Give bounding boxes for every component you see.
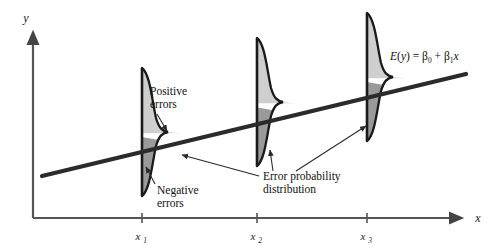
negative-errors-line-1: Negative <box>157 184 199 197</box>
figure-canvas: y x x 1 x 2 x 3 <box>0 0 503 248</box>
x-tick-label-x2: x 2 <box>250 230 263 245</box>
equation-plus: + <box>432 50 444 62</box>
equation-text: E(y) = β0 + β1x <box>389 50 460 65</box>
x-tick-label-x1: x 1 <box>135 230 147 245</box>
error-probability-leader-to-x2 <box>270 150 273 171</box>
annotation-negative-errors: Negative errors <box>146 167 199 209</box>
equation-equals: = <box>410 50 422 62</box>
regression-line <box>42 74 466 176</box>
x-tick-base-3: x <box>360 230 366 242</box>
x-tick-base-2: x <box>250 230 256 242</box>
y-axis-label: y <box>22 11 29 25</box>
positive-errors-line-2: errors <box>150 98 177 110</box>
x-axis-label: x <box>474 211 481 225</box>
x-tick-base-1: x <box>135 230 141 242</box>
error-probability-line-2: distribution <box>263 183 316 195</box>
x-tick-sub-2: 2 <box>258 236 262 245</box>
equation-E: E <box>389 50 397 62</box>
x-tick-sub-1: 1 <box>143 236 147 245</box>
error-probability-leader-to-x3 <box>296 126 366 171</box>
error-distribution-x2 <box>257 38 295 166</box>
error-probability-line-1: Error probability <box>263 170 341 183</box>
error-distribution-x3 <box>367 13 405 141</box>
x-tick-label-x3: x 3 <box>360 230 373 245</box>
negative-errors-line-2: errors <box>157 197 184 209</box>
regression-error-distribution-figure: y x x 1 x 2 x 3 <box>0 0 503 248</box>
equation-x: x <box>453 50 460 62</box>
positive-errors-line-1: Positive <box>150 85 187 97</box>
regression-equation-label: E(y) = β0 + β1x <box>389 50 460 65</box>
error-probability-leader-to-x1 <box>182 155 259 176</box>
x-tick-sub-3: 3 <box>367 236 372 245</box>
